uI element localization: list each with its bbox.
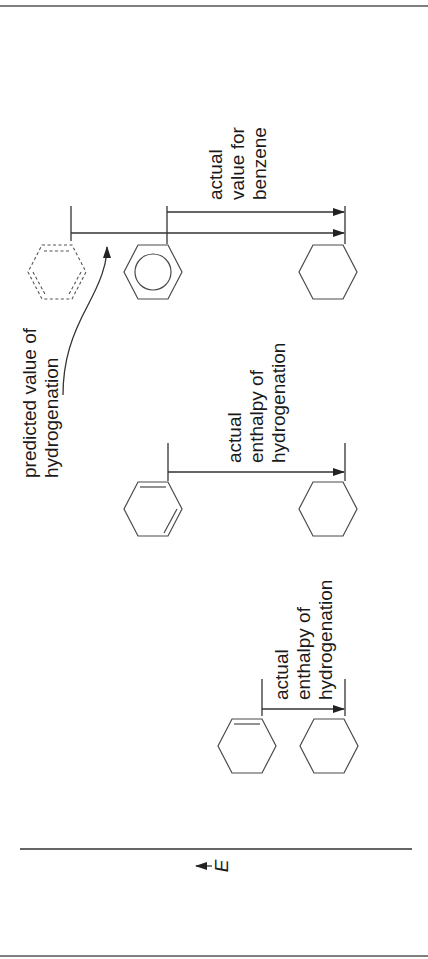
- energy-diagram: E actual enthalpy of hydrogenation: [0, 0, 428, 959]
- svg-text:actual: actual: [205, 149, 226, 200]
- svg-text:actual: actual: [271, 649, 292, 700]
- svg-text:actual: actual: [224, 412, 245, 463]
- cyclohexane-molecule: [300, 719, 358, 773]
- enthalpy-label: actual enthalpy of hydrogenation: [224, 343, 289, 463]
- svg-text:enthalpy of: enthalpy of: [246, 369, 267, 463]
- cyclohexane-molecule: [299, 482, 357, 536]
- svg-text:hydrogenation: hydrogenation: [41, 358, 62, 478]
- cyclohexane-molecule: [299, 245, 357, 299]
- energy-axis: E: [20, 849, 412, 872]
- group-benzene: actual value for benzene predicted value…: [19, 126, 357, 478]
- axis-label: E: [211, 859, 232, 872]
- group-cyclohexadiene: actual enthalpy of hydrogenation: [124, 343, 357, 536]
- benzene-label: actual value for benzene: [205, 126, 270, 200]
- enthalpy-label: actual enthalpy of hydrogenation: [271, 580, 336, 700]
- group-cyclohexene: actual enthalpy of hydrogenation: [218, 580, 358, 773]
- svg-text:enthalpy of: enthalpy of: [293, 606, 314, 700]
- cyclohexatriene-dashed-molecule: [28, 245, 86, 299]
- svg-text:predicted value of: predicted value of: [19, 327, 40, 478]
- svg-text:value for: value for: [227, 126, 248, 200]
- svg-text:hydrogenation: hydrogenation: [268, 343, 289, 463]
- svg-text:hydrogenation: hydrogenation: [315, 580, 336, 700]
- predicted-label: predicted value of hydrogenation: [19, 327, 62, 478]
- cyclohexadiene-molecule: [124, 482, 182, 536]
- cyclohexene-molecule: [218, 719, 276, 773]
- benzene-molecule: [124, 245, 182, 299]
- svg-text:benzene: benzene: [249, 127, 270, 200]
